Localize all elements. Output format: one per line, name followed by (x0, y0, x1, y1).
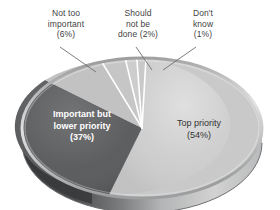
callout-dont-know-line1: Don't (172, 8, 234, 19)
pie-chart: Not too important (6%) Should not be don… (0, 0, 280, 210)
callout-not-too-important-line3: (6%) (26, 29, 106, 40)
slice-label-lower-priority: Important but lower priority (37%) (28, 109, 136, 144)
slice-label-top-priority: Top priority (54%) (158, 118, 240, 141)
callout-not-too-important: Not too important (6%) (26, 8, 106, 40)
callout-should-not-be-done-line2: not be (104, 19, 172, 30)
slice-label-top-priority-line1: Top priority (158, 118, 240, 130)
slice-label-top-priority-line2: (54%) (158, 130, 240, 142)
slice-label-lower-priority-line2: lower priority (28, 121, 136, 133)
callout-not-too-important-line2: important (26, 19, 106, 30)
callout-dont-know: Don't know (1%) (172, 8, 234, 40)
callout-should-not-be-done: Should not be done (2%) (104, 8, 172, 40)
callout-not-too-important-line1: Not too (26, 8, 106, 19)
slice-label-lower-priority-line3: (37%) (28, 132, 136, 144)
callout-dont-know-line2: know (172, 19, 234, 30)
slice-label-lower-priority-line1: Important but (28, 109, 136, 121)
callout-dont-know-line3: (1%) (172, 29, 234, 40)
callout-should-not-be-done-line1: Should (104, 8, 172, 19)
callout-should-not-be-done-line3: done (2%) (104, 29, 172, 40)
